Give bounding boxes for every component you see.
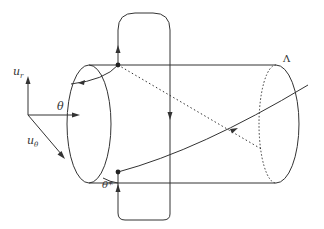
top-point [116,63,121,68]
front-arc [71,65,118,85]
loop-path [116,13,173,220]
u-r-label: ur [13,65,24,80]
lambda-label: Λ [282,53,291,64]
cylinder-diagram: ur θ uθ Λ θ* [0,0,324,229]
helical-curve [118,85,308,172]
loop-up-arrow-icon [116,45,121,53]
helical-path [118,85,308,172]
u-theta-label: uθ [27,134,39,149]
cylinder [67,65,299,183]
loop-bottom-up-arrow-icon [116,184,121,192]
front-arc-curve [71,65,118,84]
helical-arrow-icon [230,128,238,134]
dotted-diagonal [118,65,263,150]
theta-arrowhead-icon [72,113,80,118]
u-r-arrowhead-icon [26,76,31,84]
u-theta-arrowhead-icon [58,151,66,159]
theta-star-point [116,170,121,175]
left-ellipse [67,65,111,183]
loop-down-arrow-icon [168,112,173,120]
outer-loop [118,13,170,220]
theta-star-label: θ* [102,179,113,190]
right-ellipse-front [276,65,299,183]
right-ellipse-back [259,65,276,183]
theta-label: θ [57,100,64,113]
